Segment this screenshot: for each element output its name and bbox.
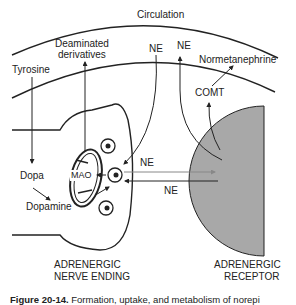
tyrosine-label: Tyrosine: [12, 64, 50, 75]
comt-label: COMT: [195, 87, 224, 98]
dopa-arrow: [33, 188, 50, 200]
normetanephrine-label: Normetanephrine: [199, 54, 276, 65]
figure-caption: Figure 20-14. Formation, uptake, and met…: [10, 294, 260, 305]
vesicle-bottom: [99, 201, 113, 215]
ne-uptake-curve: [124, 55, 156, 164]
ne-top-left-label: NE: [149, 43, 163, 54]
caption-figure-number: Figure 20-14.: [10, 294, 69, 305]
deaminated-label: Deaminated: [55, 38, 109, 49]
mao-label: MAO: [70, 170, 93, 181]
nerve-ending-title-1: ADRENERGIC: [54, 259, 121, 270]
receptor-title-1: ADRENERGIC: [214, 259, 281, 270]
vesicle-middle: [108, 168, 122, 182]
nerve-ending-title-2: NERVE ENDING: [54, 271, 130, 282]
receptor-title-2: RECEPTOR: [224, 271, 279, 282]
ne-arrow-left-label: NE: [164, 185, 178, 196]
dopamine-label: Dopamine: [26, 201, 72, 212]
caption-text: Formation, uptake, and metabolism of nor…: [71, 294, 260, 305]
dopa-label: Dopa: [20, 170, 44, 181]
circulation-inner-arc: [12, 62, 275, 98]
ne-top-right-label: NE: [177, 40, 191, 51]
normetanephrine-arrow: [212, 66, 233, 86]
derivatives-label: derivatives: [58, 49, 106, 60]
ne-arrow-right-label: NE: [140, 157, 154, 168]
circulation-label: Circulation: [137, 9, 184, 20]
vesicle-top: [101, 139, 115, 153]
